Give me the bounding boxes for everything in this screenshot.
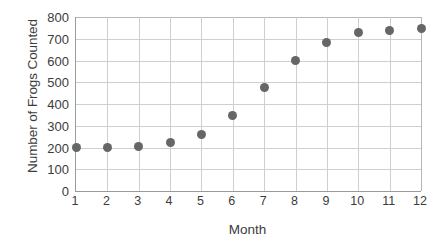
data-point <box>166 138 175 147</box>
y-tick-label: 800 <box>9 10 69 25</box>
scatter-chart: Number of Frogs Counted 0100200300400500… <box>0 0 441 249</box>
data-point <box>291 56 300 65</box>
data-point <box>322 38 331 47</box>
plot-area <box>75 17 421 192</box>
y-tick-label: 200 <box>9 140 69 155</box>
y-tick-label: 300 <box>9 118 69 133</box>
data-point <box>72 143 81 152</box>
data-point <box>417 24 426 33</box>
data-points-layer <box>76 17 421 191</box>
data-point <box>134 142 143 151</box>
data-point <box>354 28 363 37</box>
data-point <box>197 130 206 139</box>
y-tick-label: 600 <box>9 53 69 68</box>
y-tick-label: 500 <box>9 75 69 90</box>
gridline-vertical <box>421 17 422 191</box>
data-point <box>103 143 112 152</box>
data-point <box>228 111 237 120</box>
x-axis-title: Month <box>75 222 420 237</box>
data-point <box>385 26 394 35</box>
data-point <box>260 83 269 92</box>
y-tick-label: 400 <box>9 97 69 112</box>
x-tick-label: 12 <box>400 194 440 208</box>
y-tick-label: 100 <box>9 162 69 177</box>
y-tick-label: 700 <box>9 31 69 46</box>
